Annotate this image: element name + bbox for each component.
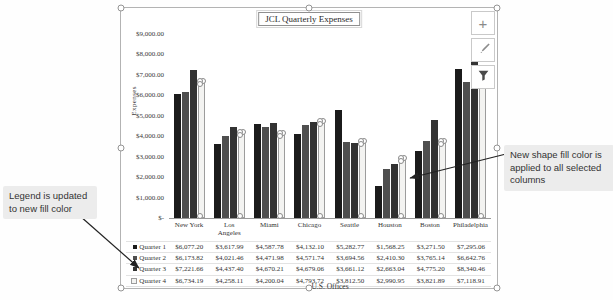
category-label: Los Angeles [209, 221, 249, 237]
y-tick-label: $9,000.00 [136, 30, 164, 38]
chart-title[interactable]: JCL Quarterly Expenses [258, 12, 360, 26]
table-cell: $4,437.40 [209, 265, 249, 273]
table-row: Quarter 1$6,077.20$3,617.99$4,587.78$4,1… [126, 241, 491, 252]
category-label: Chicago [289, 221, 329, 237]
bar-group [290, 34, 330, 218]
bar-quarter-2[interactable] [222, 136, 229, 218]
table-cell: $3,271.50 [411, 243, 451, 251]
bar-quarter-3[interactable] [391, 164, 398, 218]
selection-handle [237, 132, 243, 138]
table-row: Quarter 3$7,221.66$4,437.40$4,670.21$4,6… [126, 263, 491, 274]
series-name: Quarter 4 [139, 277, 166, 285]
page: JCL Quarterly Expenses + [0, 0, 613, 300]
table-cell: $4,679.06 [290, 265, 330, 273]
bar-quarter-2[interactable] [343, 142, 350, 218]
table-cell: $3,617.99 [209, 243, 249, 251]
table-cell: $6,642.76 [451, 254, 491, 262]
bar-quarter-4[interactable] [198, 80, 205, 218]
table-cell: $6,077.20 [169, 243, 209, 251]
selection-handle [317, 121, 323, 127]
table-row: Quarter 2$6,173.82$4,021.46$4,471.98$4,5… [126, 252, 491, 263]
bar-quarter-1[interactable] [455, 69, 462, 218]
selection-handle [197, 213, 203, 219]
bar-group [330, 34, 370, 218]
table-cell: $2,663.04 [370, 265, 410, 273]
bar-quarter-4[interactable] [439, 140, 446, 218]
y-tick-label: $8,000.00 [136, 50, 164, 58]
bar-quarter-4[interactable] [278, 132, 285, 218]
resize-handle[interactable] [118, 145, 125, 152]
bar-quarter-4[interactable] [318, 120, 325, 218]
y-tick-label: $6,000.00 [136, 91, 164, 99]
table-cell: $6,173.82 [169, 254, 209, 262]
selection-handle [438, 141, 444, 147]
selection-handle [358, 141, 364, 147]
resize-handle[interactable] [118, 285, 125, 292]
legend-key [133, 256, 137, 260]
bar-group [370, 34, 410, 218]
bar-quarter-1[interactable] [214, 144, 221, 218]
bar-quarter-1[interactable] [174, 94, 181, 218]
table-cell: $2,410.30 [370, 254, 410, 262]
y-tick-label: $4,000.00 [136, 132, 164, 140]
y-tick-label: $- [158, 214, 164, 222]
x-axis-title: U.S. Offices [169, 282, 491, 291]
resize-handle[interactable] [306, 5, 313, 12]
table-cell: $4,587.78 [250, 243, 290, 251]
category-label: Philadelphia [450, 221, 491, 237]
bar-group [169, 34, 209, 218]
bar-quarter-3[interactable] [230, 127, 237, 218]
category-label: Boston [410, 221, 450, 237]
bar-quarter-4[interactable] [399, 157, 406, 218]
table-cell: $3,661.12 [330, 265, 370, 273]
series-label: Quarter 1 [126, 243, 169, 251]
bar-quarter-2[interactable] [423, 141, 430, 218]
series-label: Quarter 2 [126, 254, 169, 262]
funnel-icon [477, 69, 490, 85]
series-name: Quarter 2 [139, 254, 166, 262]
selection-handle [197, 81, 203, 87]
bar-quarter-2[interactable] [383, 169, 390, 218]
table-cell: $1,568.25 [370, 243, 410, 251]
chart-filters-button[interactable] [471, 65, 495, 89]
resize-handle[interactable] [118, 5, 125, 12]
bar-quarter-2[interactable] [463, 82, 470, 218]
table-cell: $3,694.56 [330, 254, 370, 262]
selection-handle [398, 158, 404, 164]
bar-quarter-4[interactable] [479, 72, 486, 218]
chart-styles-button[interactable] [471, 38, 495, 62]
bar-quarter-1[interactable] [415, 151, 422, 218]
selection-handle [277, 133, 283, 139]
table-cell: $8,340.46 [451, 265, 491, 273]
bar-quarter-3[interactable] [431, 120, 438, 218]
bar-quarter-3[interactable] [310, 122, 317, 218]
chart-elements-button[interactable]: + [471, 11, 495, 35]
chart-side-buttons: + [471, 11, 495, 89]
y-tick-label: $7,000.00 [136, 71, 164, 79]
bar-quarter-2[interactable] [262, 127, 269, 218]
y-tick-label: $5,000.00 [136, 112, 164, 120]
bar-quarter-4[interactable] [359, 140, 366, 218]
bar-quarter-3[interactable] [351, 143, 358, 218]
resize-handle[interactable] [494, 285, 501, 292]
bar-quarter-3[interactable] [270, 123, 277, 218]
bar-group [411, 34, 451, 218]
resize-handle[interactable] [306, 285, 313, 292]
bar-quarter-2[interactable] [182, 92, 189, 218]
bar-quarter-1[interactable] [254, 124, 261, 218]
bar-quarter-4[interactable] [238, 131, 245, 218]
bar-quarter-1[interactable] [375, 186, 382, 218]
resize-handle[interactable] [494, 145, 501, 152]
plot-area [169, 34, 491, 218]
selection-handle [237, 213, 243, 219]
series-label: Quarter 3 [126, 265, 169, 273]
callout-fill-note: New shape fill color is applied to all s… [504, 145, 613, 191]
bar-quarter-1[interactable] [294, 134, 301, 218]
bar-quarter-1[interactable] [335, 110, 342, 218]
category-label: Miami [249, 221, 289, 237]
chart-object[interactable]: JCL Quarterly Expenses + [120, 7, 498, 289]
bar-quarter-3[interactable] [190, 70, 197, 218]
category-labels: New YorkLos AngelesMiamiChicagoSeattleHo… [169, 221, 491, 237]
bar-quarter-2[interactable] [302, 125, 309, 218]
table-cell: $5,282.77 [330, 243, 370, 251]
